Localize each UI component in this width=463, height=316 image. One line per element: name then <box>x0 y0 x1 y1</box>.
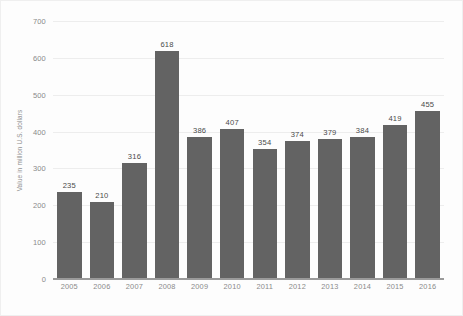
x-axis-line <box>53 278 444 279</box>
bar-value-label: 210 <box>95 191 108 200</box>
y-axis-tick-label: 700 <box>33 17 46 26</box>
bar-slot: 235 <box>53 21 86 279</box>
bar-slot: 379 <box>314 21 347 279</box>
bar-value-label: 455 <box>421 100 434 109</box>
bar[interactable]: 235 <box>57 192 81 279</box>
bar-slot: 384 <box>346 21 379 279</box>
bar-slot: 455 <box>411 21 444 279</box>
bar-value-label: 374 <box>291 130 304 139</box>
bar-value-label: 407 <box>226 118 239 127</box>
x-axis-tick-label: 2006 <box>86 282 119 291</box>
bar-value-label: 316 <box>128 152 141 161</box>
bar-value-label: 354 <box>258 138 271 147</box>
x-axis-tick-label: 2011 <box>248 282 281 291</box>
bar[interactable]: 379 <box>318 139 342 279</box>
bar[interactable]: 354 <box>253 149 277 279</box>
x-axis-tick-label: 2008 <box>151 282 184 291</box>
bar-value-label: 235 <box>63 181 76 190</box>
bar[interactable]: 618 <box>155 51 179 279</box>
x-axis-tick-label: 2012 <box>281 282 314 291</box>
gridline <box>53 279 444 280</box>
x-axis-tick-label: 2005 <box>53 282 86 291</box>
bar-value-label: 384 <box>356 126 369 135</box>
bar-value-label: 386 <box>193 126 206 135</box>
bar-slot: 374 <box>281 21 314 279</box>
y-axis-tick-label: 0 <box>42 275 46 284</box>
bar[interactable]: 210 <box>90 202 114 279</box>
x-axis-tick-label: 2010 <box>216 282 249 291</box>
y-axis-tick-labels: 0100200300400500600700 <box>1 21 53 279</box>
bar-slot: 354 <box>248 21 281 279</box>
y-axis-tick-label: 500 <box>33 90 46 99</box>
x-axis-tick-label: 2015 <box>379 282 412 291</box>
bar[interactable]: 374 <box>285 141 309 279</box>
bar-slot: 618 <box>151 21 184 279</box>
bar-slot: 386 <box>183 21 216 279</box>
bar-value-label: 618 <box>160 40 173 49</box>
x-axis-tick-label: 2013 <box>314 282 347 291</box>
y-axis-tick-label: 200 <box>33 201 46 210</box>
x-axis-tick-label: 2009 <box>183 282 216 291</box>
x-axis-tick-label: 2016 <box>411 282 444 291</box>
bar[interactable]: 419 <box>383 125 407 279</box>
bar-series: 235210316618386407354374379384419455 <box>53 21 444 279</box>
y-axis-tick-label: 300 <box>33 164 46 173</box>
x-axis-tick-label: 2014 <box>346 282 379 291</box>
plot-area: 235210316618386407354374379384419455 <box>53 21 444 279</box>
y-axis-tick-label: 600 <box>33 53 46 62</box>
bar[interactable]: 407 <box>220 129 244 279</box>
bar-slot: 407 <box>216 21 249 279</box>
bar-value-label: 379 <box>323 128 336 137</box>
bar-slot: 210 <box>86 21 119 279</box>
bar[interactable]: 455 <box>415 111 439 279</box>
bar-value-label: 419 <box>388 114 401 123</box>
bar[interactable]: 386 <box>187 137 211 279</box>
x-axis-tick-label: 2007 <box>118 282 151 291</box>
y-axis-tick-label: 400 <box>33 127 46 136</box>
bar-slot: 419 <box>379 21 412 279</box>
y-axis-tick-label: 100 <box>33 238 46 247</box>
bar-chart-figure: Value in million U.S. dollars 0100200300… <box>0 0 463 316</box>
bar[interactable]: 316 <box>122 163 146 279</box>
x-axis-tick-labels: 2005200620072008200920102011201220132014… <box>53 282 444 291</box>
bar[interactable]: 384 <box>350 137 374 279</box>
bar-slot: 316 <box>118 21 151 279</box>
